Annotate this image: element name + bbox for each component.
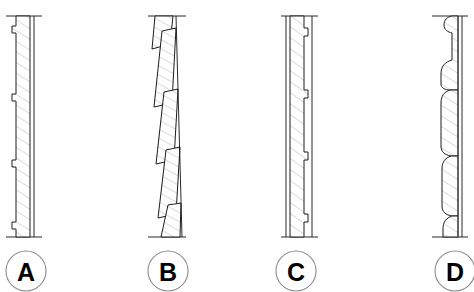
detail-b-group: [148, 16, 186, 237]
detail-c-group: [281, 16, 318, 237]
detail-tag-c-label: C: [287, 258, 305, 286]
detail-tag-b-label: B: [159, 258, 177, 286]
detail-a-board-hatch: [12, 16, 30, 237]
detail-tag-a-label: A: [17, 258, 35, 286]
detail-d-board-1: [441, 16, 458, 90]
detail-tag-a[interactable]: A: [6, 251, 46, 291]
detail-a-group: [6, 16, 42, 237]
section-details-drawing: A B C D: [0, 0, 474, 292]
detail-d-board-2: [441, 90, 458, 156]
drawing-sheet: A B C D: [0, 0, 474, 292]
detail-tag-d-label: D: [446, 258, 464, 286]
detail-d-board-4: [443, 216, 458, 237]
detail-d-group: [432, 16, 468, 237]
detail-d-board-3: [442, 156, 458, 216]
detail-tag-b[interactable]: B: [148, 251, 188, 291]
detail-c-board-hatch: [290, 16, 308, 237]
detail-tag-c[interactable]: C: [276, 251, 316, 291]
detail-tag-d[interactable]: D: [435, 251, 474, 291]
